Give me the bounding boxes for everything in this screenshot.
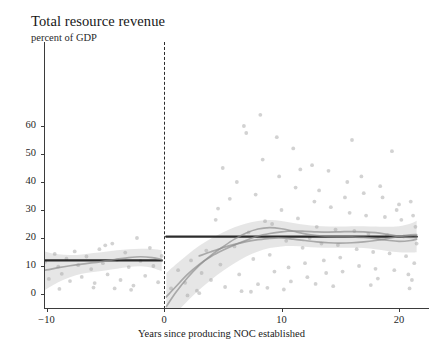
y-tick <box>41 182 45 183</box>
x-tick-label: 10 <box>262 314 302 325</box>
y-tick <box>41 126 45 127</box>
x-axis-title: Years since producing NOC established <box>0 328 443 339</box>
lowess-line <box>199 235 416 256</box>
y-tick-label: 60 <box>0 119 36 130</box>
y-tick <box>41 266 45 267</box>
chart-root: Total resource revenue percent of GDP 01… <box>0 0 443 352</box>
lowess-line <box>35 257 162 272</box>
y-tick <box>41 210 45 211</box>
y-tick <box>41 238 45 239</box>
y-tick-label: 40 <box>0 175 36 186</box>
fit-lines-layer <box>0 0 443 352</box>
lowess-line <box>166 231 416 297</box>
y-tick-label: 50 <box>0 147 36 158</box>
x-tick-label: 20 <box>379 314 419 325</box>
x-tick-label: −10 <box>27 314 67 325</box>
x-tick <box>164 308 165 312</box>
fit-line-group <box>35 228 417 307</box>
x-tick <box>282 308 283 312</box>
y-tick <box>41 294 45 295</box>
x-tick <box>47 308 48 312</box>
x-axis-line <box>44 308 429 309</box>
y-axis-line <box>44 42 45 308</box>
y-tick-label: 30 <box>0 203 36 214</box>
y-tick-label: 0 <box>0 287 36 298</box>
x-tick-label: 0 <box>144 314 184 325</box>
cutoff-dashed-line <box>164 42 165 309</box>
x-tick <box>399 308 400 312</box>
y-tick <box>41 154 45 155</box>
y-tick-label: 10 <box>0 259 36 270</box>
y-tick-label: 20 <box>0 231 36 242</box>
